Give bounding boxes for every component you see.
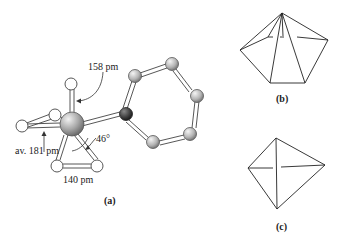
panel-c-label: (c) <box>276 221 287 233</box>
panel-a-molecule: 158 pm av. 181 pm 46° 140 pm (a) <box>15 58 204 208</box>
panel-b-label: (b) <box>276 93 288 105</box>
ring-atom-5 <box>147 136 160 149</box>
panel-c-polyhedron <box>248 138 325 209</box>
atom-left-2 <box>49 109 61 121</box>
atom-metal <box>60 112 84 136</box>
ring-atom-1 <box>129 70 142 83</box>
panel-b-pentagonal-pyramid <box>240 13 328 83</box>
label-bond-top: 158 pm <box>88 61 119 72</box>
ring-atom-2 <box>166 58 179 71</box>
atom-dark <box>120 108 133 121</box>
atom-bottom-right <box>91 160 103 172</box>
label-angle: 46° <box>96 133 110 144</box>
diagram-canvas: 158 pm av. 181 pm 46° 140 pm (a) (b) (c) <box>0 0 339 240</box>
label-bond-avg: av. 181 pm <box>15 145 59 156</box>
atom-top <box>65 78 77 90</box>
ring-atom-4 <box>184 128 197 141</box>
panel-a-label: (a) <box>104 195 116 207</box>
label-bond-bottom: 140 pm <box>63 174 94 185</box>
atom-left-1 <box>16 120 28 132</box>
ring-atom-3 <box>191 90 204 103</box>
atom-bottom-left <box>51 160 63 172</box>
